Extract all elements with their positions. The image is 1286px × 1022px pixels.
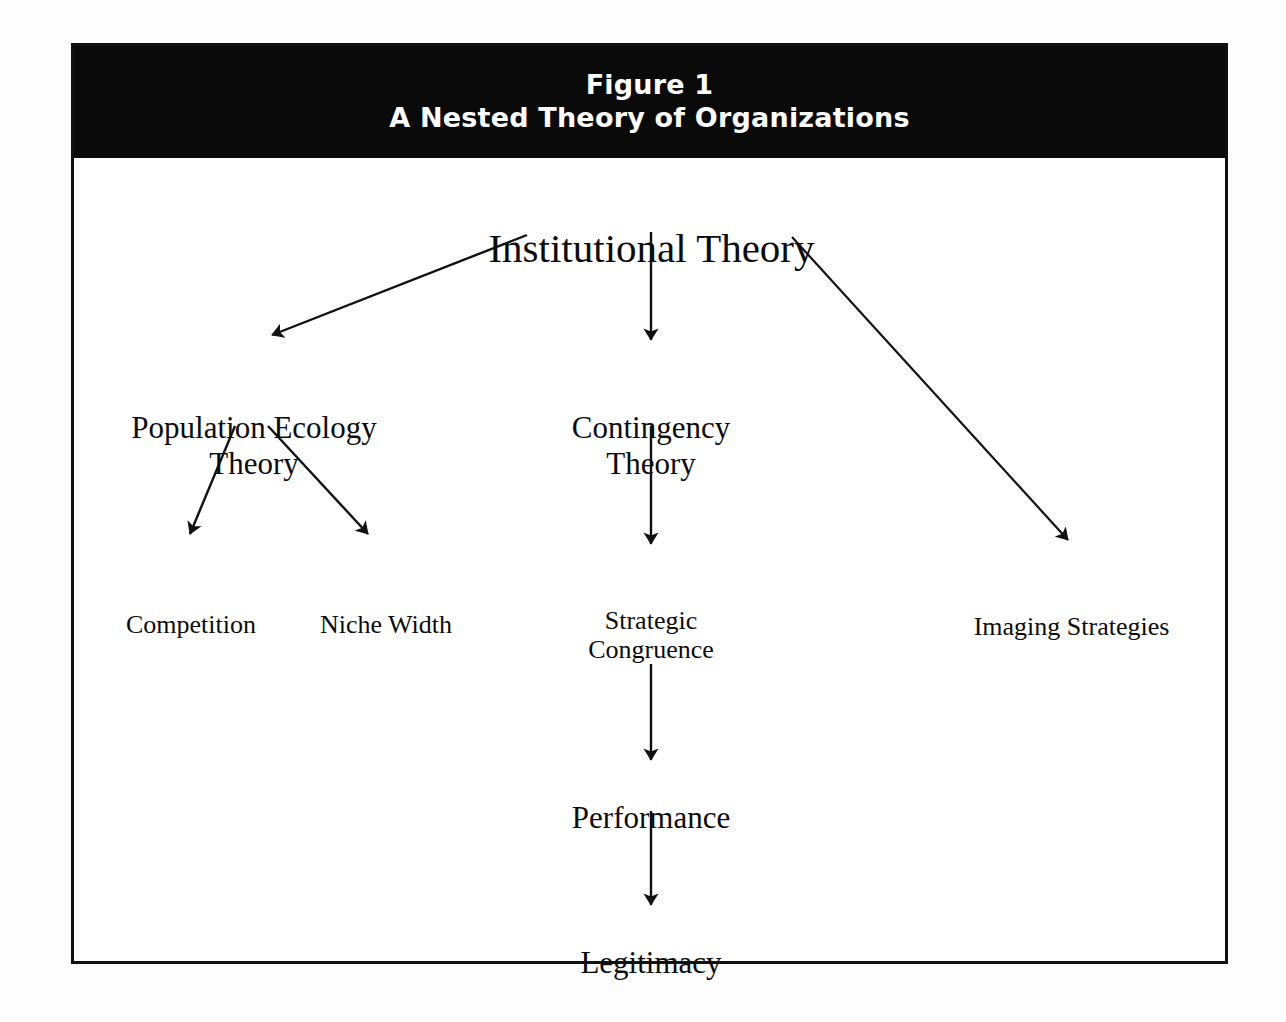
figure-title-label: A Nested Theory of Organizations — [389, 102, 909, 135]
node-contingency-theory-label: Contingency Theory — [516, 410, 786, 481]
node-legitimacy: Legitimacy — [511, 910, 791, 1016]
node-competition-label: Competition — [86, 610, 296, 640]
diagram-canvas: Institutional Theory Population Ecology … — [74, 158, 1225, 964]
figure-frame: Figure 1 A Nested Theory of Organization… — [71, 43, 1228, 964]
node-strategic-congruence: Strategic Congruence — [536, 576, 766, 695]
node-legitimacy-label: Legitimacy — [511, 945, 791, 980]
node-niche-width: Niche Width — [286, 580, 486, 669]
node-strategic-congruence-label: Strategic Congruence — [536, 606, 766, 665]
node-performance: Performance — [511, 765, 791, 871]
node-competition: Competition — [86, 580, 296, 669]
node-performance-label: Performance — [511, 800, 791, 835]
node-imaging-strategies: Imaging Strategies — [929, 582, 1214, 671]
node-institutional-theory: Institutional Theory — [464, 178, 839, 318]
figure-number-label: Figure 1 — [586, 69, 714, 102]
node-niche-width-label: Niche Width — [286, 610, 486, 640]
node-imaging-strategies-label: Imaging Strategies — [929, 612, 1214, 642]
node-population-ecology-theory-label: Population Ecology Theory — [94, 410, 414, 481]
node-population-ecology-theory: Population Ecology Theory — [94, 375, 414, 516]
node-contingency-theory: Contingency Theory — [516, 375, 786, 516]
node-institutional-theory-label: Institutional Theory — [464, 225, 839, 272]
scanned-page: Figure 1 A Nested Theory of Organization… — [0, 0, 1286, 1022]
figure-title-banner: Figure 1 A Nested Theory of Organization… — [74, 46, 1225, 158]
